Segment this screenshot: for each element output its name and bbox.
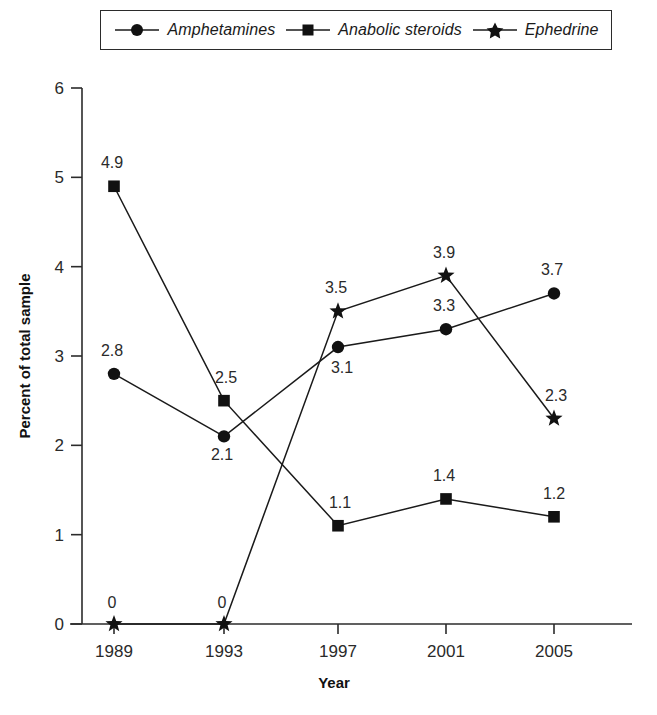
square-marker-icon (440, 493, 452, 505)
data-label: 3.5 (325, 279, 347, 296)
data-label: 1.2 (543, 485, 565, 502)
x-tick-label: 2001 (427, 642, 465, 661)
y-tick-label: 5 (55, 168, 64, 187)
data-label: 3.7 (541, 261, 563, 278)
data-label: 1.4 (433, 467, 455, 484)
x-tick-label: 1997 (319, 642, 357, 661)
line-chart: Amphetamines Anabolic steroids Ephedrine… (0, 0, 657, 715)
data-label: 3.9 (433, 244, 455, 261)
data-label: 4.9 (101, 154, 123, 171)
star-marker-icon (437, 267, 454, 283)
square-marker-icon (218, 395, 230, 407)
data-label: 3.3 (433, 297, 455, 314)
data-label: 0 (218, 594, 227, 611)
series-line-anabolic-steroids (114, 186, 554, 525)
y-tick-label: 4 (55, 258, 64, 277)
y-tick-label: 3 (55, 347, 64, 366)
circle-marker-icon (548, 287, 560, 299)
circle-marker-icon (218, 430, 230, 442)
square-marker-icon (108, 180, 120, 192)
square-marker-icon (548, 511, 560, 523)
y-tick-label: 6 (55, 79, 64, 98)
data-label: 2.5 (215, 369, 237, 386)
x-tick-label: 1993 (205, 642, 243, 661)
x-axis-title: Year (318, 674, 350, 691)
data-series-layer (105, 180, 562, 631)
circle-marker-icon (440, 323, 452, 335)
star-marker-icon (329, 302, 346, 318)
star-marker-icon (545, 410, 562, 426)
data-label: 3.1 (331, 359, 353, 376)
data-labels-layer: 2.82.13.13.33.74.92.51.11.41.2003.53.92.… (101, 154, 567, 611)
circle-marker-icon (332, 341, 344, 353)
data-label: 0 (108, 594, 117, 611)
y-tick-label: 0 (55, 615, 64, 634)
circle-marker-icon (108, 368, 120, 380)
plot-area: 012345619891993199720012005 2.82.13.13.3… (0, 0, 657, 715)
y-tick-label: 2 (55, 436, 64, 455)
x-tick-label: 2005 (535, 642, 573, 661)
x-tick-label: 1989 (95, 642, 133, 661)
data-label: 2.1 (211, 446, 233, 463)
square-marker-icon (332, 520, 344, 532)
y-tick-label: 1 (55, 526, 64, 545)
y-axis-title: Percent of total sample (16, 273, 33, 438)
data-label: 2.3 (545, 387, 567, 404)
axis-titles: YearPercent of total sample (16, 273, 350, 691)
series-line-ephedrine (114, 276, 554, 624)
data-label: 1.1 (329, 494, 351, 511)
data-label: 2.8 (101, 342, 123, 359)
